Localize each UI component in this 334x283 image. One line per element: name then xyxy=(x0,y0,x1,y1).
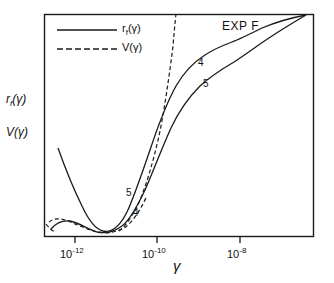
legend-rf-arg: (γ) xyxy=(128,22,141,34)
x-tick-label-2: 10-10 xyxy=(142,247,166,260)
x-tick-1-mantissa: 10 xyxy=(60,248,72,260)
y-axis-label-v: V(γ) xyxy=(6,126,28,138)
x-tick-3-mantissa: 10 xyxy=(227,248,239,260)
x-tick-label-3: 10-8 xyxy=(227,247,246,260)
y-axis-label-rf: rf(γ) xyxy=(6,93,26,108)
x-tick-label-1: 10-12 xyxy=(60,247,84,260)
plot-title: EXP F xyxy=(222,20,259,32)
x-tick-3-exponent: -8 xyxy=(239,246,246,255)
legend-v-arg: (γ) xyxy=(129,41,142,53)
plot-svg xyxy=(0,0,334,283)
x-tick-2-mantissa: 10 xyxy=(142,248,154,260)
curve-label-5-lower: 5 xyxy=(126,188,132,198)
x-axis-label: γ xyxy=(173,258,181,273)
curve-label-5-upper: 5 xyxy=(203,79,209,89)
y-label-rf-arg: (γ) xyxy=(12,92,26,106)
figure-container: rf(γ) V(γ) EXP F rf(γ) V(γ) 10-12 10-10 … xyxy=(0,0,334,283)
curve-label-4-upper: 4 xyxy=(198,58,204,68)
legend-label-v: V(γ) xyxy=(122,42,142,53)
legend-label-rf: rf(γ) xyxy=(122,23,141,37)
x-axis-ticks xyxy=(75,237,240,244)
curve-label-4-lower: 4 xyxy=(133,208,139,218)
curve-rf-4 xyxy=(58,15,306,231)
x-tick-2-exponent: -10 xyxy=(154,246,166,255)
x-tick-1-exponent: -12 xyxy=(72,246,84,255)
plot-frame xyxy=(45,15,314,237)
curve-rf-5 xyxy=(51,15,306,233)
